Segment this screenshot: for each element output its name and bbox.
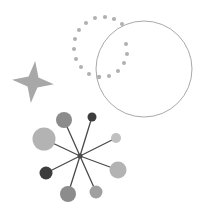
arc-dot-15 [122,61,126,65]
arc-dot-8 [72,47,76,51]
abstract-shapes-figure [0,0,207,215]
arc-dot-11 [87,72,91,76]
arc-dot-4 [93,16,97,20]
graph-node-5 [110,162,127,179]
arc-dot-10 [79,65,83,69]
arc-dot-5 [84,21,88,25]
arc-dot-14 [116,69,120,73]
arc-dot-13 [107,74,111,78]
node-graph-hub [78,154,83,159]
arc-dot-12 [97,75,101,79]
graph-node-6 [90,186,103,199]
illustration-canvas: Abstract geometric shapes illustration [0,0,207,215]
graph-node-8 [40,167,53,180]
arc-dot-9 [74,57,78,61]
graph-node-3 [88,113,97,122]
arc-dot-16 [125,52,129,56]
graph-node-2 [56,112,72,128]
graph-node-1 [33,128,56,151]
arc-dot-6 [77,28,81,32]
arc-dot-1 [120,22,124,26]
canvas-background [0,0,207,215]
arc-dot-2 [112,17,116,21]
arc-dot-3 [103,15,107,19]
graph-node-7 [60,186,76,202]
arc-dot-17 [124,42,128,46]
arc-dot-7 [73,37,77,41]
graph-node-4 [111,133,121,143]
